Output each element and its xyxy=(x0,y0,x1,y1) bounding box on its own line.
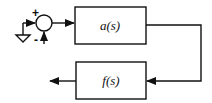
output-feedback-path xyxy=(146,25,201,81)
ground-icon xyxy=(16,23,35,42)
block-diagram: + - a(s) f(s) xyxy=(0,0,212,103)
forward-block-label: a(s) xyxy=(100,18,120,33)
forward-block: a(s) xyxy=(75,7,146,44)
feedback-block-label: f(s) xyxy=(102,73,119,88)
minus-sign: - xyxy=(34,33,38,47)
feedback-block: f(s) xyxy=(76,62,146,99)
summing-junction xyxy=(36,15,52,31)
